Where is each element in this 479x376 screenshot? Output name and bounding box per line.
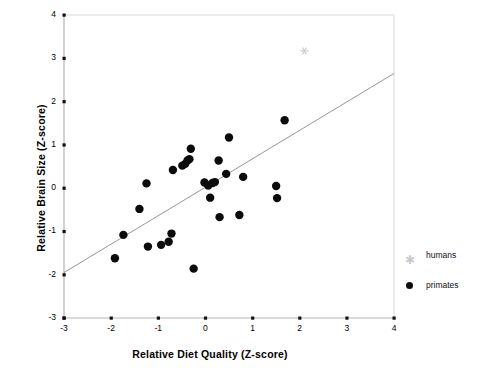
x-tick-mark <box>298 317 301 320</box>
x-tick-mark <box>63 317 66 320</box>
y-tick-mark <box>63 143 66 146</box>
y-tick-label: 1 <box>40 139 56 149</box>
x-tick-label: 3 <box>336 323 358 333</box>
scatter-plot-figure: Relative Diet Quality (Z-score) Relative… <box>0 0 479 376</box>
y-tick-label: 3 <box>40 52 56 62</box>
y-tick-label: 4 <box>40 9 56 19</box>
data-point-primate <box>239 173 247 181</box>
x-tick-mark <box>204 317 207 320</box>
data-point-primate <box>222 170 230 178</box>
legend-item-label: primates <box>426 280 459 290</box>
y-tick-mark <box>63 100 66 103</box>
data-point-primate <box>187 145 195 153</box>
data-point-primate <box>111 254 119 262</box>
y-tick-label: 2 <box>40 96 56 106</box>
x-tick-label: 0 <box>194 323 216 333</box>
y-tick-label: -1 <box>40 225 56 235</box>
y-tick-mark <box>63 230 66 233</box>
data-point-primate <box>273 194 281 202</box>
x-axis-title: Relative Diet Quality (Z-score) <box>0 348 420 360</box>
y-tick-label: 0 <box>40 182 56 192</box>
plot-canvas <box>0 0 479 376</box>
y-tick-label: -3 <box>40 312 56 322</box>
y-tick-mark <box>63 14 66 17</box>
data-point-primate <box>144 242 152 250</box>
data-point-primate <box>206 193 214 201</box>
data-point-human <box>300 47 308 54</box>
y-tick-mark <box>63 57 66 60</box>
x-tick-mark <box>345 317 348 320</box>
data-point-primate <box>164 238 172 246</box>
x-tick-label: -3 <box>53 323 75 333</box>
data-point-primate <box>272 182 280 190</box>
legend-item-label: humans <box>426 250 456 260</box>
data-point-primate <box>225 133 233 141</box>
data-point-primate <box>169 166 177 174</box>
legend: ✱ humans primates <box>404 248 479 308</box>
x-tick-label: -1 <box>147 323 169 333</box>
data-point-primate <box>119 231 127 239</box>
legend-item-primates: primates <box>404 278 479 308</box>
y-tick-mark <box>63 273 66 276</box>
data-point-primate <box>280 116 288 124</box>
x-tick-mark <box>251 317 254 320</box>
x-tick-label: 2 <box>289 323 311 333</box>
x-tick-label: -2 <box>100 323 122 333</box>
data-point-primate <box>215 213 223 221</box>
data-point-primate <box>157 241 165 249</box>
asterisk-icon: ✱ <box>404 254 416 266</box>
data-point-primate <box>214 156 222 164</box>
y-axis-title: Relative Brain Size (Z-score) <box>35 53 47 303</box>
data-point-primate <box>235 211 243 219</box>
y-tick-mark <box>63 187 66 190</box>
data-point-primate <box>142 179 150 187</box>
data-point-primate <box>135 205 143 213</box>
filled-circle-icon <box>406 282 413 289</box>
x-tick-label: 1 <box>242 323 264 333</box>
data-point-primate <box>211 178 219 186</box>
legend-item-humans: ✱ humans <box>404 248 479 278</box>
data-point-primate <box>189 264 197 272</box>
data-point-primate <box>185 155 193 163</box>
x-tick-mark <box>393 317 396 320</box>
x-tick-mark <box>110 317 113 320</box>
x-tick-mark <box>157 317 160 320</box>
y-tick-label: -2 <box>40 269 56 279</box>
x-tick-label: 4 <box>383 323 405 333</box>
data-point-primate <box>167 229 175 237</box>
